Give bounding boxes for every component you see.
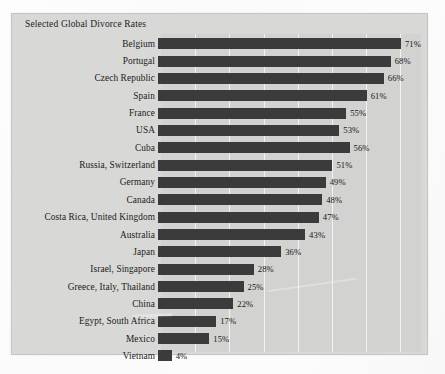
bar-category-label: Australia	[12, 230, 158, 240]
bar-row: Israel, Singapore28%	[12, 261, 429, 278]
bar-value-label: 28%	[258, 264, 274, 274]
bar-value-label: 43%	[309, 230, 325, 240]
bar-category-label: Russia, Switzerland	[12, 160, 158, 170]
bar-track: 17%	[158, 313, 429, 330]
bar	[158, 125, 339, 136]
bar	[158, 38, 401, 49]
bar-row: Belgium71%	[12, 35, 429, 52]
bar-category-label: USA	[12, 125, 158, 135]
bar	[158, 142, 350, 153]
bar-value-label: 47%	[323, 212, 339, 222]
chart-card: Selected Global Divorce Rates Belgium71%…	[11, 13, 428, 355]
bar-row: China22%	[12, 295, 429, 312]
bar-row: Russia, Switzerland51%	[12, 156, 429, 173]
bar-track: 71%	[158, 35, 429, 52]
bar-track: 25%	[158, 278, 429, 295]
bar-row: Costa Rica, United Kingdom47%	[12, 209, 429, 226]
bar-category-label: Israel, Singapore	[12, 264, 158, 274]
bar	[158, 177, 326, 188]
bar-row: Vietnam4%	[12, 347, 429, 364]
bar-track: 55%	[158, 104, 429, 121]
bar	[158, 212, 319, 223]
bar-value-label: 61%	[371, 91, 387, 101]
bar-value-label: 68%	[395, 56, 411, 66]
bar-track: 68%	[158, 52, 429, 69]
bar-track: 61%	[158, 87, 429, 104]
bar	[158, 73, 384, 84]
bar-track: 15%	[158, 330, 429, 347]
bar-track: 28%	[158, 261, 429, 278]
bar-row: Spain61%	[12, 87, 429, 104]
bar-value-label: 51%	[336, 160, 352, 170]
bar-value-label: 71%	[405, 39, 421, 49]
bar-track: 47%	[158, 209, 429, 226]
bar-track: 53%	[158, 122, 429, 139]
bar-value-label: 56%	[354, 143, 370, 153]
bar-rows: Belgium71%Portugal68%Czech Republic66%Sp…	[12, 14, 429, 356]
bar	[158, 56, 391, 67]
bar-category-label: Greece, Italy, Thailand	[12, 282, 158, 292]
bar-track: 43%	[158, 226, 429, 243]
bar-category-label: Canada	[12, 195, 158, 205]
bar-track: 48%	[158, 191, 429, 208]
bar-value-label: 55%	[350, 108, 366, 118]
bar-value-label: 53%	[343, 125, 359, 135]
bar-row: Mexico15%	[12, 330, 429, 347]
bar-track: 49%	[158, 174, 429, 191]
bar-row: Egypt, South Africa17%	[12, 313, 429, 330]
bar-category-label: Belgium	[12, 39, 158, 49]
bar-value-label: 66%	[388, 73, 404, 83]
bar-track: 4%	[158, 347, 429, 364]
bar-value-label: 17%	[220, 316, 236, 326]
bar-row: Canada48%	[12, 191, 429, 208]
bar-row: Japan36%	[12, 243, 429, 260]
bar-value-label: 49%	[330, 177, 346, 187]
bar	[158, 246, 281, 257]
bar-row: Greece, Italy, Thailand25%	[12, 278, 429, 295]
bar-value-label: 15%	[213, 334, 229, 344]
bar-category-label: Mexico	[12, 334, 158, 344]
bar-value-label: 4%	[176, 351, 188, 361]
bar-category-label: Germany	[12, 177, 158, 187]
bar-value-label: 48%	[326, 195, 342, 205]
bar	[158, 350, 172, 361]
bar-category-label: Costa Rica, United Kingdom	[12, 212, 158, 222]
bar-value-label: 25%	[248, 282, 264, 292]
bar-row: Portugal68%	[12, 52, 429, 69]
bar-category-label: Portugal	[12, 56, 158, 66]
bar	[158, 333, 209, 344]
bar	[158, 281, 244, 292]
bar-category-label: Cuba	[12, 143, 158, 153]
bar-row: Germany49%	[12, 174, 429, 191]
bar-category-label: Czech Republic	[12, 73, 158, 83]
scanned-page: Selected Global Divorce Rates Belgium71%…	[0, 0, 445, 374]
bar-category-label: Japan	[12, 247, 158, 257]
bar-row: Cuba56%	[12, 139, 429, 156]
bar-row: USA53%	[12, 122, 429, 139]
bar	[158, 160, 332, 171]
bar	[158, 194, 322, 205]
bar-track: 51%	[158, 156, 429, 173]
bar	[158, 229, 305, 240]
bar-value-label: 36%	[285, 247, 301, 257]
bar-category-label: Egypt, South Africa	[12, 316, 158, 326]
bar-track: 22%	[158, 295, 429, 312]
bar	[158, 90, 367, 101]
bar-row: Czech Republic66%	[12, 70, 429, 87]
bar-category-label: Spain	[12, 91, 158, 101]
bar-category-label: France	[12, 108, 158, 118]
bar	[158, 264, 254, 275]
bar-track: 36%	[158, 243, 429, 260]
bar	[158, 108, 346, 119]
bar-track: 56%	[158, 139, 429, 156]
bar-track: 66%	[158, 70, 429, 87]
bar	[158, 298, 233, 309]
bar-value-label: 22%	[237, 299, 253, 309]
bar-category-label: China	[12, 299, 158, 309]
bar-row: France55%	[12, 104, 429, 121]
bar-row: Australia43%	[12, 226, 429, 243]
bar	[158, 316, 216, 327]
bar-category-label: Vietnam	[12, 351, 158, 361]
